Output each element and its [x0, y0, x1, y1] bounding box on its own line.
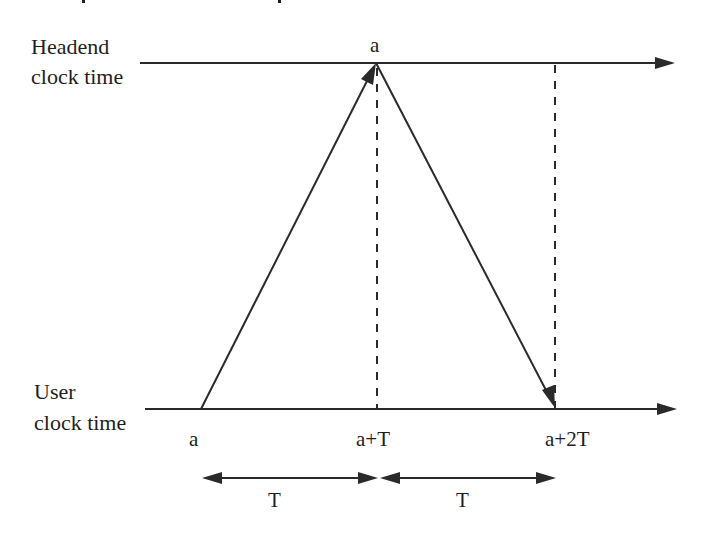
clipped-text-remnant [82, 0, 281, 3]
request-message-arrow [201, 63, 376, 409]
axis-arrowhead-icon [657, 403, 677, 415]
response-message-arrow [376, 63, 555, 408]
user-tick-label-a-plus-t: a+T [356, 427, 390, 451]
double-arrow-left-head-icon [380, 472, 400, 484]
headend-axis-label-line2: clock time [31, 64, 123, 89]
double-arrow-left-head-icon [202, 472, 222, 484]
user-time-axis [145, 403, 677, 415]
message-arrowhead-icon [542, 385, 555, 408]
double-arrow-right-head-icon [536, 472, 556, 484]
user-tick-label-a: a [189, 427, 199, 451]
user-axis-label-line1: User [34, 379, 76, 404]
double-arrow-right-head-icon [358, 472, 378, 484]
interval-arrow-2 [380, 472, 556, 484]
interval-label-2: T [456, 488, 469, 512]
axis-arrowhead-icon [655, 57, 675, 69]
headend-axis-label-line1: Headend [31, 34, 109, 59]
interval-arrow-1 [202, 472, 378, 484]
user-axis-label-line2: clock time [34, 410, 126, 435]
clock-sync-diagram: Headend clock time a User clock time a a… [0, 0, 708, 538]
headend-time-axis [140, 57, 675, 69]
headend-apex-label: a [370, 33, 380, 57]
user-tick-label-a-plus-2t: a+2T [545, 427, 590, 451]
message-arrowhead-icon [361, 63, 376, 85]
interval-label-1: T [268, 488, 281, 512]
